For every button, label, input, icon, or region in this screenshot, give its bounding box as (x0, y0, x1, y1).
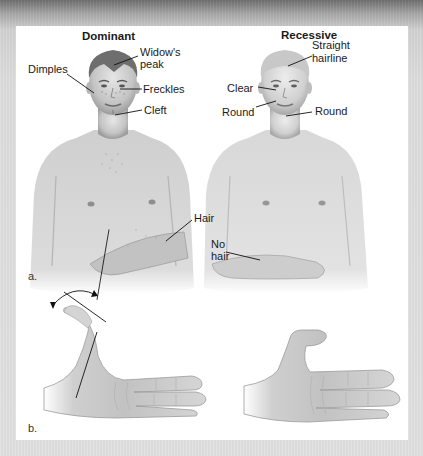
label-dimples: Dimples (28, 63, 68, 75)
label-clear: Clear (227, 82, 253, 94)
label-hair: Hair (194, 212, 214, 224)
label-straight-hairline-line2: hairline (312, 52, 347, 64)
label-widows-peak-line1: Widow's (140, 46, 181, 58)
label-no-hair-line1: No (211, 238, 225, 250)
label-round-cheek: Round (222, 106, 254, 118)
label-no-hair-line2: hair (211, 250, 229, 262)
straight-thumb-hand (244, 330, 400, 422)
panel-a-letter: a. (28, 270, 37, 282)
dominant-heading: Dominant (82, 30, 135, 42)
figure-illustration (16, 26, 408, 440)
panel-b-letter: b. (28, 422, 37, 434)
label-widows-peak-line2: peak (140, 58, 164, 70)
label-round-chin: Round (315, 105, 347, 117)
figure-panel: Dominant Recessive Widow's peak Dimples … (16, 26, 408, 440)
label-straight-hairline-line1: Straight (312, 39, 350, 51)
label-cleft: Cleft (144, 104, 167, 116)
label-freckles: Freckles (143, 83, 185, 95)
